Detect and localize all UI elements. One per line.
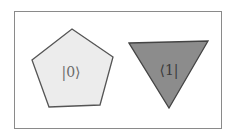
ket-zero-pentagon: |0⟩ <box>32 29 113 107</box>
bra-one-triangle: ⟨1| <box>129 41 208 108</box>
diagram-canvas: |0⟩ ⟨1| <box>0 0 236 134</box>
ket-zero-label: |0⟩ <box>61 64 80 81</box>
bra-one-label: ⟨1| <box>159 62 178 79</box>
